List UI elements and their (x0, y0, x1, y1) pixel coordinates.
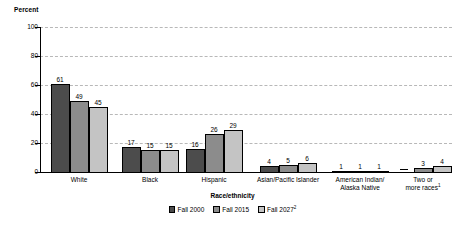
bar[interactable]: 1 (332, 171, 351, 172)
bar-group-bars: 614945 (48, 27, 110, 172)
bar-group-bars: 162629 (183, 27, 245, 172)
bar-value-label: 1 (377, 164, 381, 171)
bar-slot: 16 (186, 27, 205, 172)
legend-swatch-icon (258, 206, 265, 213)
bar-value-label: 61 (56, 77, 63, 84)
bar-slot: 3 (414, 27, 433, 172)
x-axis-group-label: Two or more races1 (378, 176, 465, 191)
y-axis-line (40, 27, 41, 172)
legend-item-label: Fall 2000 (178, 206, 205, 213)
x-axis-line (40, 172, 452, 173)
bar-value-label: 45 (94, 100, 101, 107)
bar-value-label: 15 (146, 143, 153, 150)
bar-value-label: 17 (127, 140, 134, 147)
bar-slot (395, 27, 414, 172)
bar[interactable]: 15 (141, 150, 160, 172)
bar[interactable]: 45 (89, 107, 108, 172)
bar-value-label: 16 (191, 142, 198, 149)
bar[interactable]: 4 (260, 166, 279, 172)
bar[interactable]: 5 (279, 165, 298, 172)
bar-chart: Percent 020406080100 614945White171515Bl… (0, 0, 465, 227)
legend-item[interactable]: Fall 2015 (213, 206, 249, 213)
bar-group: 162629 (183, 27, 245, 172)
legend-item-label: Fall 2015 (222, 206, 249, 213)
bar-slot: 29 (224, 27, 243, 172)
footnote-marker: 2 (294, 205, 297, 210)
y-tick-label-0: 0 (34, 168, 38, 175)
bar-value-label: 1 (339, 164, 343, 171)
bar[interactable]: 49 (70, 101, 89, 172)
y-tick-label-100: 100 (27, 23, 38, 30)
bar-slot: 6 (298, 27, 317, 172)
bar-slot: 1 (370, 27, 389, 172)
bar-slot: 15 (160, 27, 179, 172)
bar-group-bars: 456 (257, 27, 319, 172)
bar-value-label: 4 (440, 159, 444, 166)
bar-value-label: 6 (305, 156, 309, 163)
legend-item[interactable]: Fall 2000 (169, 206, 205, 213)
bar-slot: 45 (89, 27, 108, 172)
bar[interactable]: 26 (205, 134, 224, 172)
bar[interactable]: 15 (160, 150, 179, 172)
bar-group: 34 (392, 27, 454, 172)
bar-group-bars: 111 (329, 27, 391, 172)
y-tick-label-20: 20 (31, 139, 38, 146)
bar-value-label: 49 (75, 94, 82, 101)
x-axis-title: Race/ethnicity (0, 192, 465, 199)
bar-slot: 61 (51, 27, 70, 172)
bar-group: 111 (329, 27, 391, 172)
bar[interactable]: 1 (351, 171, 370, 172)
legend-swatch-icon (213, 206, 220, 213)
bar[interactable]: 61 (51, 84, 70, 172)
bar[interactable]: 3 (414, 168, 433, 172)
y-tick-label-60: 60 (31, 81, 38, 88)
y-tick-label-40: 40 (31, 110, 38, 117)
bar-group: 456 (257, 27, 319, 172)
bar-value-label: 15 (165, 143, 172, 150)
footnote-marker: 1 (438, 182, 441, 187)
bar[interactable]: 6 (298, 163, 317, 172)
y-tick-label-80: 80 (31, 52, 38, 59)
bar-group-bars: 171515 (119, 27, 181, 172)
legend-item[interactable]: Fall 20272 (258, 206, 296, 213)
bar-slot: 15 (141, 27, 160, 172)
bar-value-label: 1 (358, 164, 362, 171)
bar-group: 614945 (48, 27, 110, 172)
bar[interactable]: 17 (122, 147, 141, 172)
bar-group-bars: 34 (392, 27, 454, 172)
bar-value-label: 26 (210, 127, 217, 134)
bar-slot: 1 (332, 27, 351, 172)
bar[interactable]: 4 (433, 166, 452, 172)
legend-item-label: Fall 20272 (267, 206, 296, 213)
bar-slot: 4 (260, 27, 279, 172)
chart-legend: Fall 2000Fall 2015Fall 20272 (0, 206, 465, 213)
y-axis-title: Percent (14, 6, 39, 13)
legend-swatch-icon (169, 206, 176, 213)
bar-value-label: 4 (267, 159, 271, 166)
bar-slot: 4 (433, 27, 452, 172)
bar[interactable]: 1 (370, 171, 389, 172)
bar[interactable]: 29 (224, 130, 243, 172)
bar-slot: 26 (205, 27, 224, 172)
no-data-dash (400, 169, 408, 170)
bar-value-label: 5 (286, 158, 290, 165)
bar-slot: 49 (70, 27, 89, 172)
bar-slot: 17 (122, 27, 141, 172)
bar-value-label: 3 (421, 161, 425, 168)
bar-group: 171515 (119, 27, 181, 172)
bar-slot: 1 (351, 27, 370, 172)
bar[interactable]: 16 (186, 149, 205, 172)
bar-slot: 5 (279, 27, 298, 172)
bar-value-label: 29 (229, 123, 236, 130)
